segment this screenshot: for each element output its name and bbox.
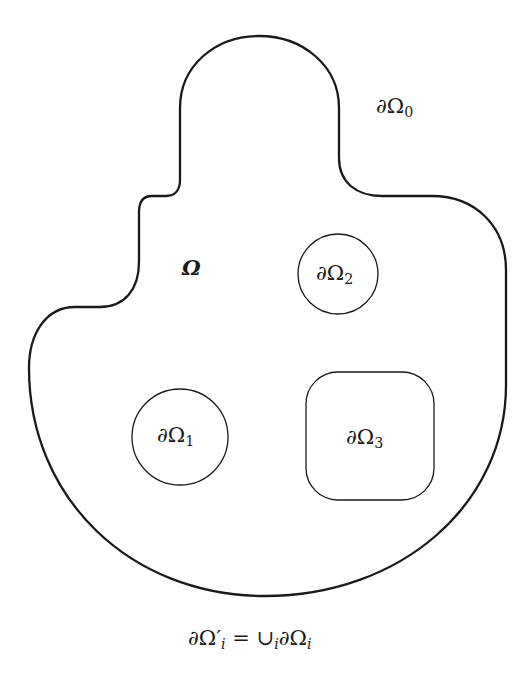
caption-equals: = [226, 626, 257, 650]
caption-rhs-sub: i [307, 636, 312, 652]
inner-boundary-2-label: ∂Ω2 [316, 263, 353, 284]
outer-boundary-label-sub: 0 [404, 104, 413, 120]
inner-boundary-2-label-sub: 2 [344, 271, 353, 287]
inner-boundary-2-label-base: ∂Ω [316, 261, 344, 285]
outer-boundary-label: ∂Ω0 [376, 96, 413, 117]
inner-boundary-1-label-base: ∂Ω [157, 423, 185, 447]
caption-lhs: ∂Ω [188, 626, 216, 650]
region-label: Ω [182, 257, 201, 278]
outer-boundary-label-base: ∂Ω [376, 94, 404, 118]
inner-boundary-3-label-sub: 3 [374, 435, 383, 451]
inner-boundary-1-label-sub: 1 [185, 433, 194, 449]
inner-boundary-3-label: ∂Ω3 [346, 427, 383, 448]
caption-equation: ∂Ω′i = ∪i∂Ωi [188, 628, 312, 649]
inner-boundary-3-label-base: ∂Ω [346, 425, 374, 449]
caption-rhs: ∂Ω [279, 626, 307, 650]
inner-boundary-1-label: ∂Ω1 [157, 425, 194, 446]
outer-boundary [29, 36, 506, 596]
domain-diagram [0, 0, 530, 676]
caption-union: ∪ [257, 626, 275, 650]
